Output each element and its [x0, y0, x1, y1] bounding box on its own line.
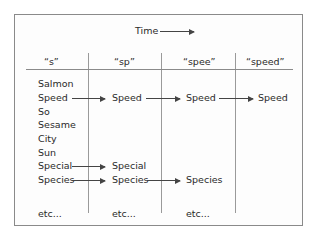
arrow-icon: [146, 98, 180, 99]
word-species: Species: [186, 174, 223, 186]
word-sun: Sun: [38, 147, 56, 159]
arrow-icon: [219, 98, 253, 99]
arrow-icon: [147, 180, 180, 181]
column-header-speed: “speed”: [246, 56, 285, 68]
time-arrow-icon: [160, 31, 194, 32]
word-city: City: [38, 133, 57, 145]
word-sesame: Sesame: [38, 119, 76, 131]
time-label: Time: [135, 25, 158, 37]
word-speed: Speed: [112, 92, 142, 104]
column-header-spee: “spee”: [183, 56, 216, 68]
etc: etc...: [186, 208, 210, 220]
arrow-icon: [72, 166, 105, 167]
etc: etc...: [38, 208, 62, 220]
word-species: Species: [38, 174, 75, 186]
word-special: Special: [112, 160, 146, 172]
word-salmon: Salmon: [38, 78, 74, 90]
word-speed: Speed: [38, 92, 68, 104]
header-divider: [26, 69, 293, 70]
word-species: Species: [112, 174, 149, 186]
word-speed: Speed: [258, 92, 288, 104]
column-divider: [235, 53, 236, 213]
column-divider: [161, 53, 162, 213]
column-divider: [88, 53, 89, 213]
column-header-s: “s”: [44, 56, 59, 68]
word-special: Special: [38, 160, 72, 172]
word-so: So: [38, 106, 50, 118]
word-speed: Speed: [186, 92, 216, 104]
etc: etc...: [112, 208, 136, 220]
arrow-icon: [72, 180, 105, 181]
arrow-icon: [72, 98, 105, 99]
column-header-sp: “sp”: [114, 56, 135, 68]
